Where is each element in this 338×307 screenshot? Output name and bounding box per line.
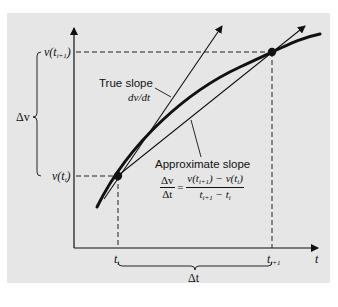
approx-slope-title: Approximate slope (155, 159, 250, 171)
y-tick-lower-prefix: v(t (52, 169, 65, 183)
x-axis-label: t (315, 253, 318, 265)
y-tick-upper-prefix: v(t (44, 45, 57, 59)
lhs-numerator: Δv (160, 175, 175, 188)
approx-slope-formula: Δv Δt = v(ti+1) − v(ti) ti+1 − ti (160, 173, 244, 202)
lhs-fraction: Δv Δt (160, 175, 175, 200)
rhs-num-b: ) − v(t (209, 172, 237, 184)
true-slope-expr: dv/dt (128, 92, 150, 103)
rhs-den-a-sub: i+1 (203, 194, 213, 202)
point-ti (114, 172, 122, 180)
y-tick-lower-suffix: ) (67, 169, 71, 183)
y-tick-upper: v(ti+1) (44, 46, 71, 60)
approx-slope-pointer (191, 120, 201, 157)
delta-t-text: Δt (188, 271, 199, 285)
rhs-num-a: v(t (187, 172, 199, 184)
rhs-denominator: ti+1 − ti (186, 188, 244, 202)
y-tick-lower: v(ti) (52, 170, 71, 184)
x-tick-left-sub: i (117, 259, 119, 267)
y-tick-upper-suffix: ) (67, 45, 71, 59)
rhs-num-c: ) (239, 172, 243, 184)
x-tick-left: ti (114, 253, 119, 267)
rhs-numerator: v(ti+1) − v(ti) (186, 173, 244, 188)
delta-v-text: Δv (16, 110, 30, 124)
true-slope-pointer (155, 88, 171, 97)
vertical-brace (33, 52, 41, 176)
rhs-den-b: − t (213, 188, 229, 200)
rhs-den-b-sub: i (229, 194, 231, 202)
lhs-denominator: Δt (160, 188, 175, 200)
equals-sign: = (177, 181, 183, 193)
x-tick-right-sub: i+1 (270, 259, 280, 267)
rhs-num-a-sub: i+1 (199, 178, 209, 186)
rhs-fraction: v(ti+1) − v(ti) ti+1 − ti (186, 173, 244, 202)
horizontal-brace (118, 262, 272, 270)
true-slope-title: True slope (99, 78, 153, 90)
x-tick-right: ti+1 (267, 253, 281, 267)
y-tick-upper-sub: i+1 (57, 52, 67, 60)
delta-t-label: Δt (188, 272, 199, 284)
point-ti1 (268, 48, 276, 56)
delta-v-label: Δv (16, 111, 30, 123)
